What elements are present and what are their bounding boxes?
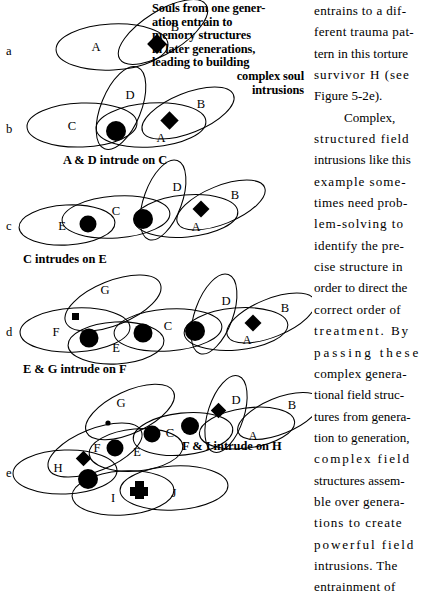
body-line-12: identify the pre- [314, 235, 438, 256]
label-d-F: F [52, 325, 59, 339]
body-line-21: tion to generation, [314, 427, 438, 448]
label-e-E: E [133, 445, 141, 459]
label-d-G: G [100, 283, 109, 297]
marker-circle-d-CD [185, 321, 205, 341]
marker-dot-e-G [105, 420, 110, 425]
label-c-A: A [191, 220, 200, 234]
body-line-26: powerful field [314, 534, 438, 555]
marker-diamond-c [193, 201, 210, 218]
label-e-G: G [116, 396, 125, 410]
figure-panel: A B C D A B E C D A B F G E C D A B [0, 0, 312, 527]
label-e-I: I [111, 491, 115, 505]
inset-caption-line-5: leading to building [152, 56, 304, 70]
inset-caption-line-2: ation entrain to [152, 16, 304, 30]
inset-caption-line-3: memory structures [152, 29, 304, 43]
body-line-6: Complex, [314, 107, 438, 128]
label-d-D: D [221, 294, 230, 308]
body-line-4: survivor H (see [314, 64, 438, 85]
marker-circle-e-FE [107, 440, 124, 457]
ellipse-d-D [182, 268, 246, 360]
label-c-D: D [172, 180, 181, 194]
body-text-column: entrains to a dif- ferent trauma pat- te… [314, 0, 438, 527]
body-line-28: entrainment of [314, 576, 438, 595]
ellipse-d-B [220, 283, 312, 353]
inset-caption-line-6: complex soul [152, 70, 304, 84]
label-d-B: B [281, 301, 289, 315]
label-b-D: D [125, 88, 134, 102]
body-line-27: intrusions. The [314, 555, 438, 576]
body-line-24: ble over genera- [314, 491, 438, 512]
ellipse-e-H [12, 448, 117, 496]
label-a-A: A [91, 40, 100, 54]
marker-circle-e-HI [78, 469, 98, 489]
caption-a-and-d-intrude-on-c: A & D intrude on C [63, 154, 167, 167]
caption-e-and-g-intrude-on-f: E & G intrude on F [23, 363, 127, 376]
marker-circle-d-FE [80, 329, 99, 348]
row-letter-a: a [6, 44, 12, 59]
row-letter-c: c [6, 219, 12, 234]
body-line-13: cise structure in [314, 256, 438, 277]
inset-caption-line-4: in later generations, [152, 43, 304, 57]
label-b-C: C [68, 119, 76, 133]
body-line-22: complex field [314, 448, 438, 469]
body-line-10: times need prob- [314, 192, 438, 213]
body-line-1: entrains to a dif- [314, 0, 438, 21]
marker-circle-b [106, 121, 126, 141]
body-line-14: order to direct the [314, 277, 438, 298]
body-line-15: correct order of [314, 299, 438, 320]
caption-f-and-i-intrude-on-h: F & I intrude on H [182, 440, 282, 453]
marker-diamond-d [245, 315, 262, 332]
label-d-C: C [164, 319, 172, 333]
body-line-19: tional field struc- [314, 384, 438, 405]
label-e-D: D [231, 393, 240, 407]
body-line-25: tions to create [314, 512, 438, 533]
body-line-8: intrusions like this [314, 149, 438, 170]
label-d-E: E [112, 341, 120, 355]
marker-diamond-b [160, 111, 178, 129]
marker-diamond-e-AB [211, 403, 227, 419]
marker-circle-c-EC [80, 216, 97, 233]
body-line-9: example some- [314, 171, 438, 192]
marker-circle-d-EC [134, 324, 153, 343]
body-line-5: Figure 5-2e). [314, 85, 438, 106]
marker-circle-e-CD [181, 417, 199, 435]
caption-c-intrudes-on-e: C intrudes on E [23, 253, 107, 266]
ellipse-c-D [131, 154, 195, 246]
body-line-7: structured field [314, 128, 438, 149]
body-line-23: structures assem- [314, 470, 438, 491]
ellipse-c-E [18, 203, 116, 248]
label-b-A: A [156, 131, 165, 145]
marker-plus-e-IJ [130, 481, 148, 499]
label-c-E: E [58, 219, 66, 233]
label-e-H: H [53, 461, 62, 475]
label-b-B: B [197, 97, 205, 111]
body-line-18: complex genera- [314, 363, 438, 384]
inset-caption-line-1: Souls from one gener- [152, 2, 304, 16]
body-line-20: tures from genera- [314, 406, 438, 427]
label-c-C: C [112, 204, 120, 218]
label-e-F: F [93, 441, 100, 455]
row-letter-b: b [6, 122, 12, 137]
marker-square-d [72, 313, 79, 320]
label-d-A: A [242, 333, 251, 347]
body-line-3: tern in this torture [314, 43, 438, 64]
body-line-11: lem-solving to [314, 213, 438, 234]
label-e-C: C [166, 426, 174, 440]
body-line-17: passing these [314, 342, 438, 363]
label-e-J: J [172, 486, 177, 500]
figure-inset-caption: Souls from one gener- ation entrain to m… [152, 2, 304, 97]
row-letter-d: d [6, 325, 12, 340]
row-letter-e: e [6, 466, 12, 481]
label-c-B: B [231, 188, 239, 202]
label-e-B: B [288, 398, 296, 412]
body-line-2: ferent trauma pat- [314, 21, 438, 42]
marker-circle-c-CD [133, 209, 153, 229]
marker-circle-e-EC [144, 426, 161, 443]
inset-caption-line-7: intrusions [152, 84, 304, 98]
body-line-16: treatment. By [314, 320, 438, 341]
